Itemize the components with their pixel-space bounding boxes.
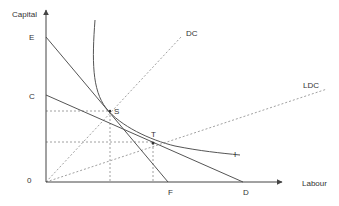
- point-s-marker: [109, 110, 111, 112]
- point-e-label: E: [29, 34, 34, 42]
- guide-lines: [46, 37, 327, 182]
- dc-label: DC: [186, 30, 198, 38]
- y-axis-label: Capital: [12, 11, 37, 19]
- point-d-label: D: [243, 189, 249, 197]
- ldc-label: LDC: [303, 82, 319, 90]
- budget-lines: [46, 37, 243, 182]
- isoquant-diagram: [0, 0, 339, 206]
- budget-line-cd: [46, 95, 243, 182]
- axes: [46, 10, 282, 182]
- origin-label: 0: [27, 177, 31, 185]
- point-t-marker: [152, 142, 155, 145]
- point-f-label: F: [168, 189, 173, 197]
- x-axis-label: Labour: [302, 180, 327, 188]
- point-s-label: S: [114, 108, 119, 116]
- isoquant-curve: [93, 20, 240, 155]
- point-t-label: T: [151, 131, 156, 139]
- point-c-label: C: [29, 93, 35, 101]
- isoquant-label: I: [234, 151, 236, 159]
- ldc-ray: [46, 89, 327, 182]
